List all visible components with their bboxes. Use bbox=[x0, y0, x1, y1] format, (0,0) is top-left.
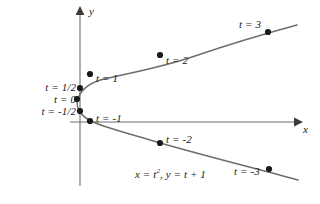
point-label-t-minus-2: t = -2 bbox=[166, 134, 192, 145]
point-label-t-minus-3: t = -3 bbox=[234, 166, 260, 177]
point-label-t-minus-one-half: t = -1/2 bbox=[0, 106, 76, 117]
point-label-t0: t = 0 bbox=[0, 94, 76, 105]
parametric-curve-figure: t = 3 t = 2 t = 1 t = 1/2 t = 0 t = -1/2… bbox=[0, 0, 320, 204]
y-axis-arrow-icon bbox=[76, 6, 85, 15]
equation-prefix: x = t bbox=[135, 168, 156, 180]
y-axis-label: y bbox=[89, 6, 94, 17]
point-label-t-one-half: t = 1/2 bbox=[0, 82, 76, 93]
equation-suffix: , y = t + 1 bbox=[160, 168, 206, 180]
point-label-t2: t = 2 bbox=[166, 55, 188, 66]
x-axis-label: x bbox=[303, 124, 308, 135]
data-point bbox=[157, 140, 163, 146]
parametric-curve bbox=[77, 25, 298, 180]
data-point bbox=[87, 71, 93, 77]
point-label-t1: t = 1 bbox=[96, 73, 118, 84]
data-points-group bbox=[74, 29, 272, 172]
data-point bbox=[87, 118, 93, 124]
data-point bbox=[265, 29, 271, 35]
data-point bbox=[157, 52, 163, 58]
equation-caption: x = t2, y = t + 1 bbox=[135, 169, 206, 180]
point-label-t3: t = 3 bbox=[239, 19, 261, 30]
data-point bbox=[77, 108, 83, 114]
x-axis-arrow-icon bbox=[294, 118, 303, 127]
point-label-t-minus-1: t = -1 bbox=[96, 113, 122, 124]
data-point bbox=[266, 166, 272, 172]
data-point bbox=[77, 85, 83, 91]
